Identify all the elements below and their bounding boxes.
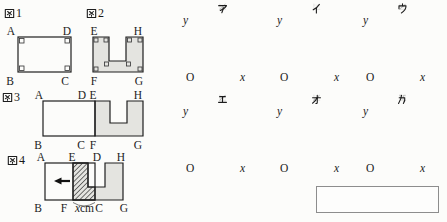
figure-3-shapes: A D E H B C F G (34, 89, 143, 152)
vertex-label: F (61, 202, 67, 214)
graph-u: y O x (352, 2, 440, 92)
right-angle-mark (65, 39, 70, 44)
graph-a: y O x (172, 2, 260, 92)
vertex-label: D (63, 25, 71, 37)
move-left-arrowhead (54, 178, 62, 185)
graph-o: y O x (266, 93, 354, 183)
vertex-label: H (117, 151, 125, 163)
rectangle-abcd (18, 37, 71, 72)
graph-title (272, 2, 360, 14)
graph-plot (172, 105, 260, 173)
worksheet-page: A D B C E H F G A D E H (0, 0, 447, 222)
answer-box (316, 186, 439, 213)
vertex-label: C (61, 75, 69, 87)
figure-2-ushape: E H F G (90, 25, 143, 88)
vertex-label: H (134, 89, 142, 101)
graph-i: y O x (266, 2, 354, 92)
graph-title (358, 2, 446, 14)
vertex-label: E (68, 151, 75, 163)
graph-title (178, 93, 266, 105)
figures-panel: A D B C E H F G A D E H (0, 0, 195, 222)
right-angle-mark (20, 66, 25, 71)
vertex-label: E (90, 25, 97, 37)
figure-1-rectangle: A D B C (6, 25, 71, 88)
figure-2-title: 2 (86, 7, 104, 20)
vertex-label: G (135, 75, 143, 87)
graph-plot (352, 105, 440, 173)
vertex-label: A (35, 89, 44, 101)
vertex-label: F (91, 75, 97, 87)
graph-e: y O x (172, 93, 260, 183)
vertex-label: D (78, 89, 86, 101)
overlap-hatched-region (73, 163, 95, 200)
ushape-efgh (93, 37, 143, 72)
vertex-label: H (134, 25, 142, 37)
graph-plot (172, 14, 260, 82)
ushape-efgh (95, 101, 143, 136)
graph-plot (266, 105, 354, 173)
figure-3-title: 3 (2, 91, 20, 104)
vertex-label: G (120, 202, 128, 214)
vertex-label: F (90, 139, 96, 151)
graph-title (358, 93, 446, 105)
vertex-label: B (34, 202, 42, 214)
vertex-label: B (6, 75, 14, 87)
vertex-label: E (89, 89, 96, 101)
right-angle-mark (20, 39, 25, 44)
graph-ka: y O x (352, 93, 440, 183)
vertex-label: A (37, 151, 46, 163)
graph-title (178, 2, 266, 14)
figure-4-shapes: A E D H B F C G xcm (34, 151, 128, 215)
figure-1-title: 1 (4, 7, 22, 20)
vertex-label: A (7, 25, 16, 37)
graph-plot (352, 14, 440, 82)
right-angle-mark (65, 66, 70, 71)
vertex-label: C (95, 202, 103, 214)
figure-4-title: 4 (7, 154, 25, 167)
rectangle-abcd (43, 101, 95, 136)
vertex-label: C (77, 139, 85, 151)
vertex-label: G (134, 139, 142, 151)
vertex-label: B (34, 139, 42, 151)
vertex-label: D (93, 151, 101, 163)
graph-title (272, 93, 360, 105)
measure-label: xcm (74, 202, 94, 214)
graph-plot (266, 14, 354, 82)
